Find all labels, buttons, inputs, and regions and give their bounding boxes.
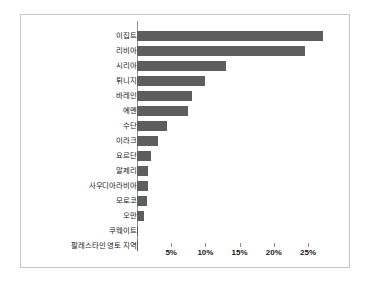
bar[interactable] <box>137 196 147 206</box>
bar[interactable] <box>137 151 151 161</box>
bar[interactable] <box>137 76 205 86</box>
bar[interactable] <box>137 136 158 146</box>
bar-row: 수단 <box>21 119 351 133</box>
bar-row: 알제리 <box>21 164 351 178</box>
bar-row: 시리아 <box>21 59 351 73</box>
x-axis-tick-label: 25% <box>300 248 316 257</box>
category-label: 이라크 <box>116 134 137 148</box>
x-axis-tick <box>308 243 309 247</box>
category-label: 예멘 <box>123 104 137 118</box>
bar[interactable] <box>137 211 144 221</box>
bar-row: 바레인 <box>21 89 351 103</box>
bar[interactable] <box>137 91 192 101</box>
bar[interactable] <box>137 31 323 41</box>
bar-row: 사우디아라비아 <box>21 179 351 193</box>
category-label: 튀니지 <box>116 74 137 88</box>
bar-row: 오만 <box>21 209 351 223</box>
category-label: 사우디아라비아 <box>89 179 137 193</box>
bar[interactable] <box>137 226 138 236</box>
category-label: 요르단 <box>116 149 137 163</box>
bar-row: 모로코 <box>21 194 351 208</box>
bar[interactable] <box>137 61 226 71</box>
category-label: 쿠웨이트 <box>109 224 137 238</box>
x-axis-tick-label: 10% <box>197 248 213 257</box>
category-label: 수단 <box>123 119 137 133</box>
x-axis-tick-label: 15% <box>232 248 248 257</box>
x-axis-tick-label: 20% <box>266 248 282 257</box>
bar-row: 이집트 <box>21 29 351 43</box>
bar-row: 리비아 <box>21 44 351 58</box>
category-label: 모로코 <box>116 194 137 208</box>
bar[interactable] <box>137 46 305 56</box>
bar[interactable] <box>137 241 138 251</box>
bar[interactable] <box>137 106 188 116</box>
x-axis-tick <box>171 243 172 247</box>
bar[interactable] <box>137 181 148 191</box>
bar-row: 요르단 <box>21 149 351 163</box>
bar[interactable] <box>137 121 167 131</box>
chart-frame: 이집트 리비아 시리아 튀니지 바레인 예멘 수단 이라크 <box>20 14 350 268</box>
bar[interactable] <box>137 166 148 176</box>
category-label: 바레인 <box>116 89 137 103</box>
bar-row: 쿠웨이트 <box>21 224 351 238</box>
category-label: 이집트 <box>116 29 137 43</box>
bar-row: 이라크 <box>21 134 351 148</box>
x-axis-tick <box>274 243 275 247</box>
bar-row: 튀니지 <box>21 74 351 88</box>
category-label: 리비아 <box>116 44 137 58</box>
category-label: 알제리 <box>116 164 137 178</box>
category-label: 오만 <box>123 209 137 223</box>
x-axis-tick <box>240 243 241 247</box>
plot-area: 이집트 리비아 시리아 튀니지 바레인 예멘 수단 이라크 <box>21 15 351 269</box>
bar-row: 예멘 <box>21 104 351 118</box>
category-label: 시리아 <box>116 59 137 73</box>
x-axis-tick <box>205 243 206 247</box>
category-label: 팔레스타인 영토 지역 <box>71 239 137 253</box>
x-axis-tick-label: 5% <box>165 248 177 257</box>
